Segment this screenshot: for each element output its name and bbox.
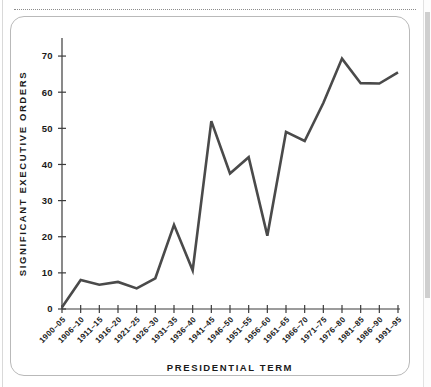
dotted-separator-rule — [14, 9, 416, 10]
scrollbar-thumb[interactable] — [425, 12, 430, 298]
y-tick-label: 40 — [42, 159, 53, 170]
y-tick-label: 60 — [42, 87, 53, 98]
y-tick-label: 70 — [42, 50, 53, 61]
x-tick-labels: 1900–051906–101911–151916–201921–251926–… — [38, 315, 404, 345]
line-chart: 010203040506070 SIGNIFICANT EXECUTIVE OR… — [10, 16, 410, 376]
x-axis-title: PRESIDENTIAL TERM — [167, 362, 293, 373]
page-left-edge-rule — [2, 0, 3, 387]
y-axis-title: SIGNIFICANT EXECUTIVE ORDERS — [17, 71, 28, 276]
y-tick-label: 50 — [42, 123, 53, 134]
y-axis-group: 010203040506070 SIGNIFICANT EXECUTIVE OR… — [17, 38, 66, 314]
data-series-line — [62, 59, 398, 308]
x-axis-group: 1900–051906–101911–151916–201921–251926–… — [38, 305, 404, 373]
y-tick-label: 10 — [42, 267, 53, 278]
y-tick-label: 20 — [42, 231, 53, 242]
y-tick-labels: 010203040506070 — [42, 50, 53, 314]
y-tick-label: 30 — [42, 195, 53, 206]
page-canvas: 010203040506070 SIGNIFICANT EXECUTIVE OR… — [0, 0, 431, 387]
y-tick-label: 0 — [47, 303, 53, 314]
right-scroll-strip[interactable] — [423, 0, 431, 387]
